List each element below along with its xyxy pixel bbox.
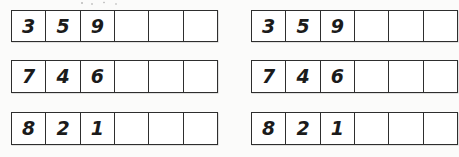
empty-cell[interactable] xyxy=(115,113,149,144)
empty-cell[interactable] xyxy=(424,113,457,144)
empty-cell[interactable] xyxy=(115,11,149,41)
empty-cell[interactable] xyxy=(424,11,457,41)
digit-glyph: 2 xyxy=(296,119,309,138)
digit-cell[interactable]: 2 xyxy=(286,113,320,144)
digit-cell[interactable]: 1 xyxy=(81,113,115,144)
digit-cell[interactable]: 7 xyxy=(12,61,46,92)
digit-cell[interactable]: 1 xyxy=(321,113,355,144)
digit-glyph: 4 xyxy=(56,67,69,86)
right-grid: 3 5 9 7 4 6 8 2 1 xyxy=(251,0,458,157)
digit-cell[interactable]: 8 xyxy=(252,113,286,144)
digit-cell[interactable]: 5 xyxy=(46,11,80,41)
digit-glyph: 5 xyxy=(56,16,69,35)
digit-glyph: 3 xyxy=(22,16,35,35)
digit-cell[interactable]: 6 xyxy=(321,61,355,92)
empty-cell[interactable] xyxy=(149,61,183,92)
digit-glyph: 9 xyxy=(331,16,344,35)
digit-glyph: 9 xyxy=(91,16,104,35)
digit-cell[interactable]: 5 xyxy=(286,11,320,41)
digit-glyph: 1 xyxy=(331,119,344,138)
digit-cell[interactable]: 3 xyxy=(12,11,46,41)
empty-cell[interactable] xyxy=(184,11,217,41)
empty-cell[interactable] xyxy=(149,113,183,144)
empty-cell[interactable] xyxy=(115,61,149,92)
digit-glyph: 8 xyxy=(22,119,35,138)
digit-cell[interactable]: 9 xyxy=(81,11,115,41)
table-row: 7 4 6 xyxy=(11,60,218,93)
digit-cell[interactable]: 3 xyxy=(252,11,286,41)
digit-glyph: 2 xyxy=(56,119,69,138)
empty-cell[interactable] xyxy=(355,113,389,144)
digit-cell[interactable]: 4 xyxy=(46,61,80,92)
digit-glyph: 5 xyxy=(296,16,309,35)
digit-cell[interactable]: 7 xyxy=(252,61,286,92)
digit-cell[interactable]: 6 xyxy=(81,61,115,92)
empty-cell[interactable] xyxy=(149,11,183,41)
digit-glyph: 7 xyxy=(22,67,35,86)
table-row: 8 2 1 xyxy=(251,112,458,145)
digit-cell[interactable]: 2 xyxy=(46,113,80,144)
digit-glyph: 6 xyxy=(91,67,104,86)
digit-glyph: 4 xyxy=(296,67,309,86)
digit-glyph: 3 xyxy=(262,16,275,35)
empty-cell[interactable] xyxy=(184,113,217,144)
digit-cell[interactable]: 4 xyxy=(286,61,320,92)
worksheet-canvas: 3 5 9 7 4 6 8 2 1 3 5 9 xyxy=(0,0,459,157)
table-row: 3 5 9 xyxy=(251,10,458,42)
digit-cell[interactable]: 8 xyxy=(12,113,46,144)
table-row: 3 5 9 xyxy=(11,10,218,42)
empty-cell[interactable] xyxy=(355,61,389,92)
empty-cell[interactable] xyxy=(355,11,389,41)
empty-cell[interactable] xyxy=(389,113,423,144)
left-grid: 3 5 9 7 4 6 8 2 1 xyxy=(11,0,218,157)
empty-cell[interactable] xyxy=(424,61,457,92)
digit-glyph: 6 xyxy=(331,67,344,86)
digit-glyph: 7 xyxy=(262,67,275,86)
empty-cell[interactable] xyxy=(389,61,423,92)
digit-glyph: 1 xyxy=(91,119,104,138)
digit-glyph: 8 xyxy=(262,119,275,138)
empty-cell[interactable] xyxy=(184,61,217,92)
digit-cell[interactable]: 9 xyxy=(321,11,355,41)
empty-cell[interactable] xyxy=(389,11,423,41)
table-row: 7 4 6 xyxy=(251,60,458,93)
table-row: 8 2 1 xyxy=(11,112,218,145)
